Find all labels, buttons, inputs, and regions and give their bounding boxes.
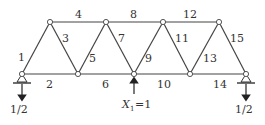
node-t3 (160, 19, 165, 24)
label-member-10: 10 (157, 78, 171, 91)
label-member-15: 15 (230, 32, 244, 45)
node-b3 (131, 71, 136, 76)
label-member-4: 4 (75, 8, 82, 21)
node-t1 (47, 19, 52, 24)
node-b4 (187, 71, 192, 76)
label-member-2: 2 (46, 78, 53, 91)
member-7 (106, 22, 134, 74)
label-member-1: 1 (18, 51, 25, 64)
label-member-8: 8 (130, 8, 137, 21)
label-member-14: 14 (213, 78, 227, 91)
force-value: =1 (135, 98, 151, 111)
right-reaction-label: 1/2 (235, 103, 253, 116)
member-11 (163, 22, 190, 74)
member-15 (219, 22, 246, 74)
member-3 (50, 22, 78, 74)
label-member-7: 7 (118, 32, 125, 45)
label-member-3: 3 (62, 32, 69, 45)
label-member-9: 9 (145, 52, 152, 65)
member-13 (190, 22, 219, 74)
member-1 (22, 22, 50, 74)
node-t2 (103, 19, 108, 24)
applied-force-label: X 1 =1 (121, 98, 151, 113)
label-member-12: 12 (183, 8, 197, 21)
label-member-6: 6 (102, 78, 109, 91)
node-b5 (243, 71, 248, 76)
left-reaction-label: 1/2 (10, 103, 28, 116)
member-5 (78, 22, 106, 74)
label-member-11: 11 (175, 32, 189, 45)
force-subscript: 1 (130, 105, 134, 113)
truss-diagram: 1 2 3 4 5 6 7 8 9 10 11 12 13 14 15 1/2 … (0, 0, 265, 125)
label-member-5: 5 (89, 52, 96, 65)
node-b1 (19, 71, 24, 76)
label-member-13: 13 (203, 52, 217, 65)
node-b2 (75, 71, 80, 76)
member-9 (134, 22, 163, 74)
node-t4 (216, 19, 221, 24)
